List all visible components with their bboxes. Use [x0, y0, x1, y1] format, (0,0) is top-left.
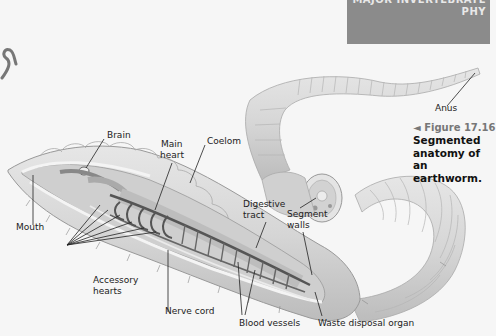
- label-segment-walls-2: walls: [287, 220, 310, 231]
- figure-title-line-2: anatomy of an: [413, 147, 493, 172]
- label-nerve-cord: Nerve cord: [165, 306, 214, 317]
- label-main-heart-2: heart: [160, 150, 184, 161]
- label-main-heart-1: Main: [161, 139, 183, 150]
- label-brain: Brain: [107, 130, 131, 141]
- label-accessory-hearts-1: Accessory: [93, 275, 138, 286]
- label-digestive-tract-1: Digestive: [243, 199, 285, 210]
- figure-caption: ◄ Figure 17.16 Segmented anatomy of an e…: [413, 122, 493, 184]
- figure-number: ◄ Figure 17.16: [413, 122, 493, 134]
- label-mouth: Mouth: [16, 222, 44, 233]
- label-accessory-hearts-2: hearts: [93, 286, 122, 297]
- label-segment-walls-1: Segment: [287, 209, 328, 220]
- figure-title-line-3: earthworm.: [413, 172, 493, 185]
- label-digestive-tract-2: tract: [243, 210, 264, 221]
- small-worm-icon: [2, 50, 16, 78]
- label-waste-disposal-organ: Waste disposal organ: [318, 318, 414, 329]
- label-coelom: Coelom: [207, 136, 241, 147]
- label-anus: Anus: [435, 103, 457, 114]
- label-blood-vessels: Blood vessels: [239, 318, 300, 329]
- figure-title-line-1: Segmented: [413, 134, 493, 147]
